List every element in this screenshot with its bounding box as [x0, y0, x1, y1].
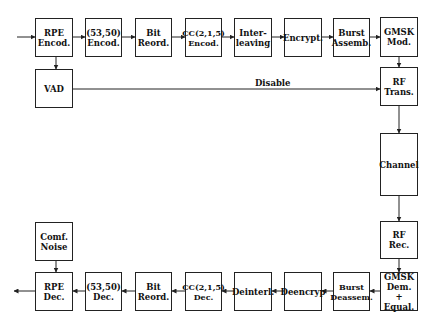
cc-encoder-block: CC(2,1,5) Encod.: [185, 18, 222, 57]
gmsk-modulator-block: GMSK Mod.: [380, 17, 418, 57]
decrypt-block: Deencryp: [284, 272, 322, 311]
rpe-encoder-block: RPE Encod.: [35, 18, 73, 57]
gmsk-demodulator-block: GMSK Dem. + Equal.: [380, 272, 418, 311]
rf-receiver-block: RF Rec.: [380, 221, 418, 259]
rf-transmitter-block: RF Trans.: [380, 67, 418, 106]
bit-reorder-rx-block: Bit Reord.: [135, 272, 172, 311]
vad-block: VAD: [35, 69, 73, 108]
bit-reorder-tx-block: Bit Reord.: [135, 18, 172, 57]
cc-decoder-block: CC(2,1,5) Dec.: [185, 272, 222, 311]
53-50-decoder-block: (53,50) Dec.: [85, 272, 122, 311]
channel-block: Channel: [380, 133, 418, 196]
encrypt-block: Encrypt.: [284, 18, 322, 57]
interleaving-block: Inter- leaving: [234, 18, 272, 57]
comfort-noise-block: Comf. Noise: [35, 222, 73, 261]
burst-disassembly-block: Burst Deassem.: [333, 272, 370, 311]
disable-label: Disable: [255, 78, 290, 88]
deinterleaving-block: Deinterl.: [234, 272, 272, 311]
53-50-encoder-block: (53,50) Encod.: [85, 18, 122, 57]
rpe-decoder-block: RPE Dec.: [35, 272, 73, 311]
burst-assembly-block: Burst Assemb.: [333, 18, 370, 57]
